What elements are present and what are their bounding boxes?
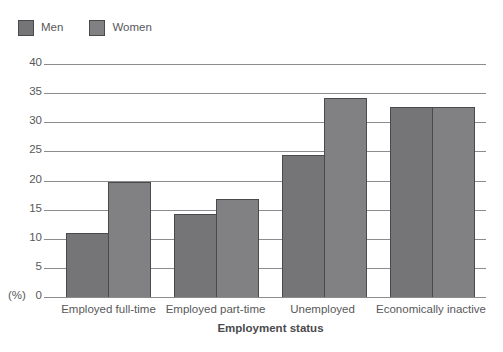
bar-men-1 xyxy=(174,214,217,297)
bar-groups xyxy=(55,64,486,297)
legend-swatch-icon-men xyxy=(18,20,34,36)
bar-women-0 xyxy=(108,182,151,297)
x-axis-category-label: Employed full-time xyxy=(55,303,162,317)
y-axis-tick-25: 25 xyxy=(0,151,55,152)
legend-label-men: Men xyxy=(41,22,63,34)
y-axis-tick-35: 35 xyxy=(0,93,55,94)
x-axis-category-label: Economically inactive xyxy=(376,303,486,317)
y-axis-unit-label: (%) xyxy=(8,290,26,302)
y-axis-tick-mark xyxy=(44,181,55,182)
x-axis-title: Employment status xyxy=(55,322,486,334)
y-axis-tick-20: 20 xyxy=(0,181,55,182)
legend-item-women: Women xyxy=(89,20,151,36)
y-axis-tick-mark xyxy=(44,210,55,211)
y-axis-tick-mark xyxy=(44,93,55,94)
gridline-0 xyxy=(55,297,486,298)
y-axis-tick-30: 30 xyxy=(0,122,55,123)
bar-women-2 xyxy=(324,98,367,297)
bar-group xyxy=(271,64,379,297)
bar-group xyxy=(378,64,486,297)
chart-legend: Men Women xyxy=(18,19,152,37)
y-axis-tick-5: 5 xyxy=(0,268,55,269)
x-axis-category-label: Unemployed xyxy=(269,303,376,317)
legend-swatch-icon-women xyxy=(89,20,105,36)
legend-item-men: Men xyxy=(18,20,63,36)
y-axis-tick-label: 40 xyxy=(29,57,42,69)
y-axis-tick-label: 20 xyxy=(29,174,42,186)
bar-group xyxy=(163,64,271,297)
y-axis-tick-mark xyxy=(44,122,55,123)
y-axis-tick-mark xyxy=(44,239,55,240)
plot-area xyxy=(55,64,486,297)
x-axis-category-label: Employed part-time xyxy=(162,303,269,317)
bar-men-0 xyxy=(66,233,109,297)
y-axis-tick-label: 0 xyxy=(36,290,42,302)
y-axis-tick-label: 5 xyxy=(36,261,42,273)
bar-men-2 xyxy=(282,155,325,297)
y-axis-tick-mark xyxy=(44,268,55,269)
bar-group xyxy=(55,64,163,297)
y-axis-tick-label: 30 xyxy=(29,115,42,127)
y-axis-tick-15: 15 xyxy=(0,210,55,211)
y-axis-tick-mark xyxy=(44,151,55,152)
bar-women-1 xyxy=(216,199,259,297)
bar-women-3 xyxy=(432,107,475,297)
legend-label-women: Women xyxy=(112,22,151,34)
y-axis-tick-label: 10 xyxy=(29,232,42,244)
y-axis-tick-label: 35 xyxy=(29,86,42,98)
y-axis-tick-label: 15 xyxy=(29,203,42,215)
bar-men-3 xyxy=(390,107,433,297)
y-axis-tick-mark xyxy=(44,297,55,298)
y-axis-tick-label: 25 xyxy=(29,144,42,156)
y-axis-tick-10: 10 xyxy=(0,239,55,240)
y-axis-tick-40: 40 xyxy=(0,64,55,65)
x-axis-labels: Employed full-timeEmployed part-timeUnem… xyxy=(55,303,486,317)
y-axis-tick-mark xyxy=(44,64,55,65)
